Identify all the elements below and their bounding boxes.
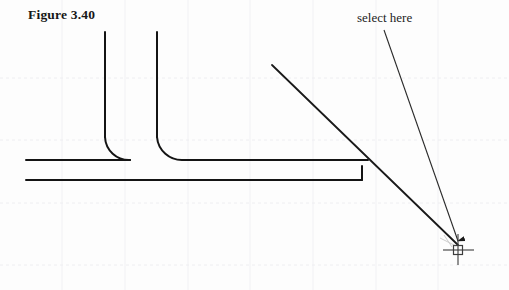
select-here-label: select here: [357, 10, 412, 26]
crosshair-pickbox-icon: [0, 0, 509, 290]
figure-page: Figure 3.40 select here: [0, 0, 509, 290]
figure-caption: Figure 3.40: [28, 7, 95, 23]
